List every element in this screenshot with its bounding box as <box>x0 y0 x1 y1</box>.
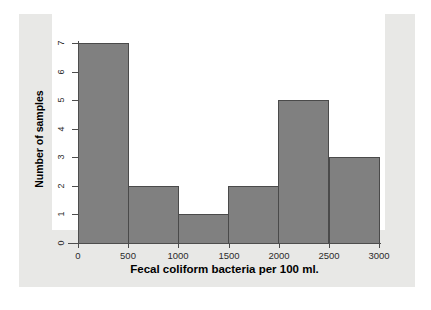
y-axis-tick-label-2: 2 <box>56 178 66 195</box>
x-axis-tick-label-2500: 2500 <box>318 250 339 261</box>
x-axis-title: Fecal coliform bacteria per 100 ml. <box>68 263 381 275</box>
y-axis-tick-label-1: 1 <box>56 206 66 223</box>
histogram-bar <box>329 157 380 244</box>
histogram-bar <box>228 186 279 244</box>
x-axis-line <box>68 243 381 244</box>
x-axis-tick-label-0: 0 <box>75 250 80 261</box>
histogram-bar <box>128 186 179 244</box>
histogram-figure: Number of samples 0 1 2 3 4 5 6 7 0 500 … <box>0 0 431 310</box>
x-axis-tick-2000 <box>279 243 280 248</box>
x-axis-tick-label-2000: 2000 <box>268 250 289 261</box>
y-axis-title: Number of samples <box>33 64 45 214</box>
y-axis-tick-label-3: 3 <box>56 149 66 166</box>
y-axis-line <box>78 41 79 244</box>
x-axis-tick-label-1000: 1000 <box>167 250 188 261</box>
y-axis-tick-label-0: 0 <box>56 235 66 252</box>
x-axis-tick-label-1500: 1500 <box>218 250 239 261</box>
y-axis-tick-label-6: 6 <box>56 64 66 81</box>
x-axis-tick-1000 <box>178 243 179 248</box>
y-axis-tick-label-5: 5 <box>56 92 66 109</box>
x-axis-tick-label-3000: 3000 <box>368 250 389 261</box>
x-axis-tick-2500 <box>329 243 330 248</box>
histogram-bar <box>178 214 229 244</box>
y-axis-tick-label-4: 4 <box>56 121 66 138</box>
x-axis-tick-3000 <box>379 243 380 248</box>
x-axis-tick-500 <box>128 243 129 248</box>
x-axis-tick-1500 <box>229 243 230 248</box>
x-axis-tick-label-500: 500 <box>120 250 136 261</box>
y-axis-tick-label-7: 7 <box>56 35 66 52</box>
x-axis-tick-0 <box>78 243 79 248</box>
histogram-bar <box>278 100 329 244</box>
histogram-bar <box>78 43 129 244</box>
